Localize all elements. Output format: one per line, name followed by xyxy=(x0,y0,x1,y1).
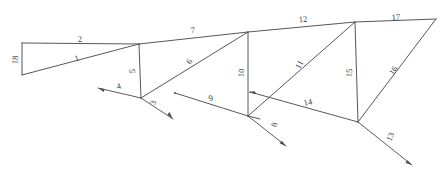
member-1-line xyxy=(22,44,139,75)
label-member-7: 7 xyxy=(190,25,195,35)
member-15-line xyxy=(355,22,358,122)
force-vectors-group xyxy=(98,88,412,165)
label-member-9: 9 xyxy=(208,93,214,104)
force-3-line xyxy=(141,98,173,119)
truss-diagram-canvas: 18 2 1 5 4 3 7 6 9 10 8 12 11 14 15 17 1… xyxy=(0,0,443,179)
label-member-16: 16 xyxy=(387,64,400,77)
truss-diagram-svg: 18 2 1 5 4 3 7 6 9 10 8 12 11 14 15 17 1… xyxy=(0,0,443,179)
label-member-1: 1 xyxy=(73,53,80,64)
member-5-line xyxy=(139,44,141,98)
label-member-10: 10 xyxy=(236,69,246,78)
label-member-5: 5 xyxy=(127,69,137,74)
label-member-2: 2 xyxy=(77,34,82,44)
label-member-8: 8 xyxy=(269,121,280,128)
label-member-15: 15 xyxy=(344,69,354,78)
force-4-arrowhead xyxy=(98,88,105,92)
member-labels-group: 18 2 1 5 4 3 7 6 9 10 8 12 11 14 15 17 1… xyxy=(10,12,401,143)
label-member-14: 14 xyxy=(302,96,313,108)
member-14-arrowhead xyxy=(248,91,256,94)
members-group xyxy=(22,19,436,122)
label-member-3: 3 xyxy=(148,99,159,107)
label-member-11: 11 xyxy=(293,58,306,70)
label-member-18: 18 xyxy=(10,56,20,65)
label-member-6: 6 xyxy=(184,57,195,66)
force-8-line xyxy=(248,116,286,146)
label-member-17: 17 xyxy=(391,12,400,22)
member-9-endpoint-dot xyxy=(174,92,176,94)
label-member-13: 13 xyxy=(384,131,396,143)
label-member-4: 4 xyxy=(115,80,123,91)
label-member-12: 12 xyxy=(298,14,307,25)
force-13-line xyxy=(358,122,412,165)
